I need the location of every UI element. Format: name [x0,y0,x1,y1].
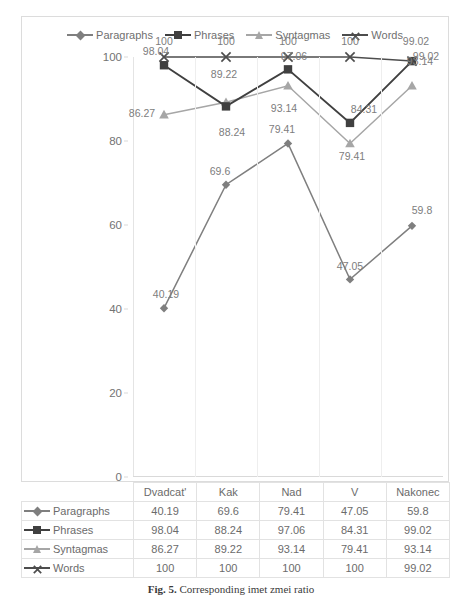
table-cell: 99.02 [386,521,449,540]
table-row-header: Syntagmas [22,540,134,559]
y-axis-tick-mark [124,141,128,142]
data-point-triangle [283,81,293,90]
table-cell: 86.27 [134,540,197,559]
table-cell: 93.14 [386,540,449,559]
legend-item-words[interactable]: Words [342,29,403,41]
legend-item-label: Words [371,29,403,41]
series-phrases [160,57,416,127]
series-layer [133,57,443,477]
caption-prefix: Fig. 5. [148,583,177,595]
data-point-square [160,61,168,69]
y-axis-tick-label: 20 [109,387,122,399]
y-axis-tick-label: 100 [103,51,122,63]
table-cell: 89.22 [197,540,260,559]
table-column-header: Nakonec [386,483,449,502]
y-axis-tick-mark [124,225,128,226]
table-row-label: Syntagmas [53,543,108,555]
legend-item-phrases[interactable]: Phrases [165,29,234,41]
table-cell: 100 [134,559,197,578]
y-axis-tick-mark [124,393,128,394]
data-table: Dvadcat'KakNadVNakonecParagraphs40.1969.… [21,482,450,578]
legend-item-label: Syntagmas [275,29,330,41]
gridline-vertical [319,57,320,477]
data-point-square [346,119,354,127]
table-cell: 100 [197,559,260,578]
table-row-label: Paragraphs [53,505,110,517]
series-line [164,86,412,144]
series-syntagmas [159,81,417,147]
data-point-diamond [160,304,168,312]
chart-legend: ParagraphsPhrasesSyntagmasWords [21,26,449,44]
table-row-label: Phrases [53,524,93,536]
table-cell: 100 [260,559,323,578]
table-cell: 59.8 [386,502,449,521]
y-axis-tick-label: 80 [109,135,122,147]
table-row-header: Phrases [22,521,134,540]
legend-marker-square-icon [24,524,50,536]
table-cell: 93.14 [260,540,323,559]
y-axis-tick-label: 60 [109,219,122,231]
data-point-square [222,102,230,110]
caption-text: Corresponding imet zmei ratio [180,583,315,595]
table-column-header: Nad [260,483,323,502]
gridline-vertical [381,57,382,477]
legend-item-paragraphs[interactable]: Paragraphs [67,29,153,41]
legend-marker-diamond-icon [67,29,93,41]
data-point-triangle [407,81,417,90]
table-cell: 100 [323,559,386,578]
y-axis-tick-mark [124,57,128,58]
table-cell: 69.6 [197,502,260,521]
plot-area: 40.1969.679.4147.0559.898.0488.2497.0684… [133,57,443,477]
table-cell: 79.41 [323,540,386,559]
legend-item-label: Paragraphs [96,29,153,41]
table-cell: 84.31 [323,521,386,540]
legend-marker-diamond-icon [24,505,50,517]
legend-marker-cross-icon [24,562,50,574]
table-cell: 97.06 [260,521,323,540]
table-row: Paragraphs40.1969.679.4147.0559.8 [22,502,450,521]
legend-marker-triangle-icon [24,543,50,555]
y-axis-tick-mark [124,477,128,478]
legend-marker-triangle-icon [246,29,272,41]
gridline-vertical [195,57,196,477]
figure-caption: Fig. 5. Corresponding imet zmei ratio [0,583,462,595]
data-point-diamond [284,139,292,147]
table-row-label: Words [53,562,85,574]
series-paragraphs [160,139,416,312]
table-cell: 88.24 [197,521,260,540]
series-line [164,143,412,308]
table-row-header: Words [22,559,134,578]
y-axis-tick-mark [124,309,128,310]
table-corner-cell [22,483,134,502]
legend-item-syntagmas[interactable]: Syntagmas [246,29,330,41]
legend-item-label: Phrases [194,29,234,41]
table-column-header: Dvadcat' [134,483,197,502]
y-axis-tick-label: 40 [109,303,122,315]
table-column-header: V [323,483,386,502]
table-row: Phrases98.0488.2497.0684.3199.02 [22,521,450,540]
data-point-diamond [222,180,230,188]
table-row-header: Paragraphs [22,502,134,521]
table-row: Syntagmas86.2789.2293.1479.4193.14 [22,540,450,559]
figure: ParagraphsPhrasesSyntagmasWords 02040608… [0,0,462,598]
table-cell: 40.19 [134,502,197,521]
table-row: Words10010010010099.02 [22,559,450,578]
gridline-vertical [257,57,258,477]
table-cell: 99.02 [386,559,449,578]
y-axis: 020406080100 [84,57,128,477]
table-header-row: Dvadcat'KakNadVNakonec [22,483,450,502]
table-cell: 79.41 [260,502,323,521]
data-point-square [284,65,292,73]
table-cell: 47.05 [323,502,386,521]
table-cell: 98.04 [134,521,197,540]
table-column-header: Kak [197,483,260,502]
legend-marker-cross-icon [342,29,368,41]
legend-marker-square-icon [165,29,191,41]
